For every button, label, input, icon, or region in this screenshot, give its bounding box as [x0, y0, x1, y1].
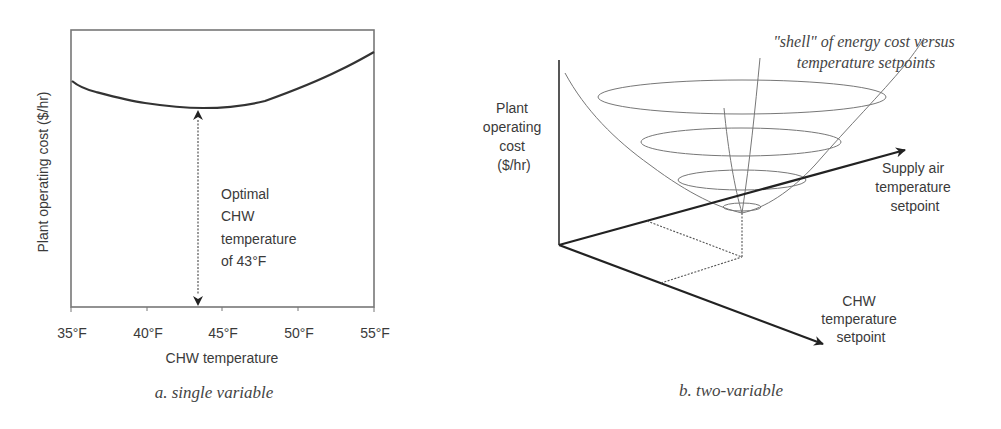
svg-text:35°F: 35°F: [57, 325, 87, 341]
caption-b: b. two-variable: [679, 381, 783, 400]
x-axis-label: CHW temperature: [166, 350, 279, 366]
figure-canvas: Optimal CHW temperature of 43°F 35°F 40°…: [0, 0, 1001, 429]
svg-text:45°F: 45°F: [208, 325, 238, 341]
supply-air-axis: [559, 150, 905, 245]
panel-b-two-variable: Plant operating cost ($/hr) Supply air t…: [483, 33, 959, 400]
chw-axis: [559, 245, 823, 344]
arrow-head-up-icon: [193, 110, 203, 120]
x-tick-labels: 35°F 40°F 45°F 50°F 55°F: [57, 325, 390, 341]
cost-curve: [72, 52, 374, 108]
y-axis-label: Plant operating cost ($/hr): [35, 91, 51, 252]
svg-text:40°F: 40°F: [133, 325, 163, 341]
projection-lines: [647, 213, 742, 283]
shell-label: "shell" of energy cost versus temperatur…: [773, 33, 959, 72]
arrow-head-down-icon: [193, 296, 203, 306]
caption-a: a. single variable: [155, 383, 274, 402]
panel-a-single-variable: Optimal CHW temperature of 43°F 35°F 40°…: [35, 30, 390, 402]
chw-axis-label: CHW temperature setpoint: [821, 293, 900, 345]
optimal-annotation: Optimal CHW temperature of 43°F: [221, 186, 300, 269]
cost-axis-label: Plant operating cost ($/hr): [483, 100, 545, 173]
svg-text:50°F: 50°F: [284, 325, 314, 341]
supply-air-axis-label: Supply air temperature setpoint: [875, 160, 954, 214]
svg-text:55°F: 55°F: [360, 325, 390, 341]
